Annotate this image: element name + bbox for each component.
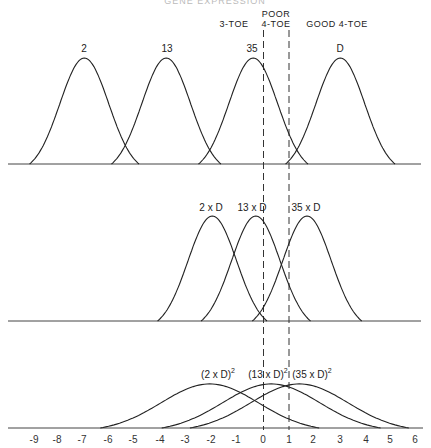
distribution-curve [112, 58, 221, 164]
distribution-curve [100, 384, 319, 428]
distribution-curve [162, 384, 381, 428]
tick-label: -6 [104, 434, 113, 445]
tick-label: 3 [337, 434, 343, 445]
tick-label: -3 [181, 434, 190, 445]
cropped-title: GENE EXPRESSION [164, 0, 266, 6]
distribution-curve [286, 58, 395, 164]
tick-label: -2 [207, 434, 216, 445]
distribution-curve [190, 384, 409, 428]
genetic-threshold-diagram: GENE EXPRESSION POOR 3-TOE 4-TOE GOOD 4-… [0, 0, 431, 448]
curve-label-13xd: 13 x D [238, 202, 267, 213]
distribution-curve [158, 216, 267, 321]
curves-top-panel [30, 58, 395, 164]
region-label-good-4-toe: GOOD 4-TOE [306, 19, 367, 29]
x-axis-ticks: -9 -8 -7 -6 -5 -4 -3 -2 -1 0 1 2 3 4 5 6 [30, 434, 419, 445]
region-label-poor: POOR [262, 9, 291, 19]
tick-label: 2 [310, 434, 316, 445]
curve-label-2xd-squared: (2 x D)2 [201, 367, 235, 380]
curves-middle-panel [158, 216, 362, 321]
tick-label: -1 [232, 434, 241, 445]
curve-label-35xd: 35 x D [292, 202, 321, 213]
curve-label-35: 35 [246, 43, 258, 54]
curves-bottom-panel [100, 384, 409, 428]
tick-label: 1 [286, 434, 292, 445]
distribution-curve [30, 58, 139, 164]
tick-label: 5 [387, 434, 393, 445]
tick-label: -8 [53, 434, 62, 445]
distribution-curve [199, 58, 309, 164]
tick-label: 4 [363, 434, 369, 445]
curve-label-2xd: 2 x D [199, 202, 222, 213]
curve-label-2: 2 [81, 43, 87, 54]
tick-label: -7 [78, 434, 87, 445]
tick-label: 0 [260, 434, 266, 445]
region-label-3-toe: 3-TOE [220, 19, 249, 29]
curve-label-13: 13 [161, 43, 173, 54]
curve-label-35xd-squared: (35 x D)2 [292, 367, 332, 380]
region-label-poor-4-toe: 4-TOE [262, 19, 291, 29]
tick-label: -9 [30, 434, 39, 445]
curve-label-d: D [336, 43, 343, 54]
tick-label: -4 [156, 434, 165, 445]
tick-label: -5 [129, 434, 138, 445]
tick-label: 6 [412, 434, 418, 445]
curve-label-13xd-squared: (13 x D)2 [248, 367, 288, 380]
